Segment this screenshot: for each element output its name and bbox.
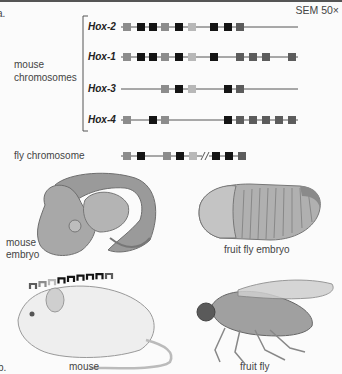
gene-box xyxy=(137,53,145,61)
gene-box xyxy=(288,53,296,61)
gene-box xyxy=(224,23,232,31)
gene-box xyxy=(123,116,131,124)
gene-box xyxy=(161,116,169,124)
gene-box xyxy=(249,116,257,124)
gene-box xyxy=(123,23,131,31)
gene-box xyxy=(161,85,169,93)
fruit-fly-label: fruit fly xyxy=(240,361,269,372)
gene-box xyxy=(188,23,196,31)
hox-diagram xyxy=(0,0,342,374)
gene-arch-mark xyxy=(49,280,55,285)
gene-arch-mark xyxy=(97,274,103,279)
fruit-fly-embryo-label: fruit fly embryo xyxy=(224,244,290,255)
mouse-embryo-illustration xyxy=(37,173,155,255)
gene-box xyxy=(137,152,145,160)
gene-arch-mark xyxy=(59,278,65,283)
gene-box xyxy=(149,53,157,61)
gene-box xyxy=(137,23,145,31)
gene-box xyxy=(212,152,220,160)
gene-box xyxy=(123,53,131,61)
gene-arch-mark xyxy=(40,282,46,287)
gene-box xyxy=(163,152,171,160)
gene-box xyxy=(262,116,270,124)
gene-box xyxy=(210,23,218,31)
mouse-label: mouse xyxy=(69,361,99,372)
gene-box xyxy=(262,53,270,61)
fly-embryo-illustration xyxy=(199,184,320,240)
group-bracket xyxy=(83,16,88,131)
gene-box xyxy=(288,116,296,124)
gene-box xyxy=(161,23,169,31)
gene-box xyxy=(176,152,184,160)
gene-box xyxy=(149,116,157,124)
gene-box xyxy=(224,116,232,124)
gene-box xyxy=(188,53,196,61)
gene-box xyxy=(161,53,169,61)
chromosome-rows xyxy=(121,23,298,124)
gene-box xyxy=(249,53,257,61)
mouse-embryo-label-line-2: embryo xyxy=(6,249,39,261)
gene-box xyxy=(188,85,196,93)
gene-box xyxy=(149,23,157,31)
gene-box xyxy=(238,152,246,160)
mouse-illustration xyxy=(18,274,171,368)
gene-arch-mark xyxy=(106,274,112,279)
gene-box xyxy=(224,85,232,93)
fly-chromosome xyxy=(121,152,246,160)
gene-box xyxy=(210,53,218,61)
gene-box xyxy=(236,85,244,93)
gene-arch-mark xyxy=(78,276,84,281)
gene-box xyxy=(236,23,244,31)
gene-box xyxy=(225,152,233,160)
gene-box xyxy=(236,116,244,124)
gene-box xyxy=(175,23,183,31)
gene-arch-mark xyxy=(30,284,36,289)
gene-box xyxy=(175,53,183,61)
gene-box xyxy=(275,116,283,124)
gene-arch-mark xyxy=(68,277,74,282)
fruit-fly-illustration xyxy=(197,280,333,364)
gene-arch-mark xyxy=(87,275,93,280)
mouse-embryo-label: mouse embryo xyxy=(6,237,39,261)
panel-label-b: b. xyxy=(0,362,6,373)
gene-box xyxy=(175,85,183,93)
mouse-embryo-label-line-1: mouse xyxy=(6,237,39,249)
gene-box xyxy=(189,152,197,160)
gene-box xyxy=(123,152,131,160)
chromosome-break-icon xyxy=(201,152,209,160)
gene-box xyxy=(236,53,244,61)
